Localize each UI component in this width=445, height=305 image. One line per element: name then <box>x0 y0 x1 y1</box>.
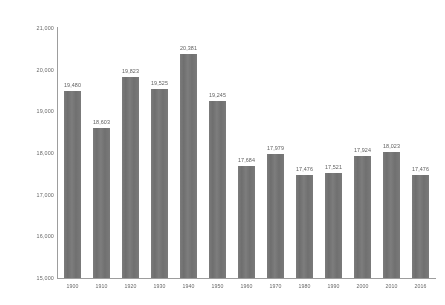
x-axis-tick-label: 1970 <box>270 283 282 289</box>
x-axis-tick-label: 1960 <box>241 283 253 289</box>
x-axis-tick-label: 1940 <box>183 283 195 289</box>
bar-chart: 21,00020,00019,00018,00017,00016,00015,0… <box>0 0 445 305</box>
x-axis-tick-label: 2016 <box>415 283 427 289</box>
y-axis-tick-label: 17,000 <box>14 192 54 198</box>
x-axis-tick-label: 1900 <box>67 283 79 289</box>
x-axis-tick-label: 1990 <box>328 283 340 289</box>
y-axis-tick-label: 16,000 <box>14 233 54 239</box>
y-axis-tick-label: 19,000 <box>14 108 54 114</box>
x-axis-tick-label: 1980 <box>299 283 311 289</box>
y-axis-tick-label: 20,000 <box>14 67 54 73</box>
x-axis-tick-labels: 1900191019201930194019501960197019801990… <box>58 0 435 305</box>
y-axis-tick-labels: 21,00020,00019,00018,00017,00016,00015,0… <box>10 0 54 305</box>
y-axis-tick-label: 15,000 <box>14 275 54 281</box>
x-axis-tick-label: 2010 <box>386 283 398 289</box>
x-axis-tick-label: 1930 <box>154 283 166 289</box>
y-axis-tick-label: 18,000 <box>14 150 54 156</box>
x-axis-tick-label: 1920 <box>125 283 137 289</box>
x-axis-tick-label: 1910 <box>96 283 108 289</box>
x-axis-tick-label: 1950 <box>212 283 224 289</box>
x-axis-tick-label: 2000 <box>357 283 369 289</box>
y-axis-tick-label: 21,000 <box>14 25 54 31</box>
